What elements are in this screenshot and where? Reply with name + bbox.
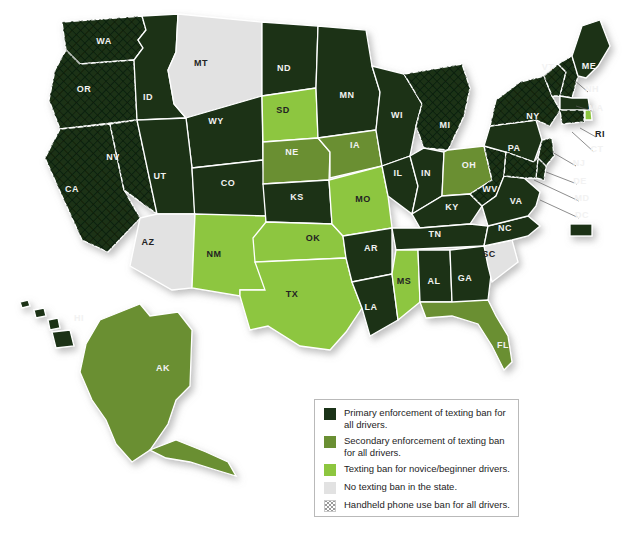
state-label-CT: CT [591, 144, 604, 154]
state-label-AK: AK [156, 363, 170, 373]
legend-label: No texting ban in the state. [344, 481, 457, 493]
state-shape-TX [240, 258, 362, 350]
state-label-VA: VA [510, 196, 523, 206]
state-label-VT: VT [542, 62, 554, 72]
legend-swatch-primary-icon [324, 408, 336, 420]
legend-item-hatch: Handheld phone use ban for all drivers. [324, 499, 510, 512]
legend-swatch-hatch-icon [324, 500, 336, 512]
state-shape-FL [420, 300, 512, 370]
legend-swatch-novice-icon [324, 464, 336, 476]
state-shape-AZ [130, 214, 195, 290]
legend-swatch-secondary-icon [324, 436, 336, 448]
state-label-NJ: NJ [573, 158, 585, 168]
state-label-MT: MT [194, 58, 208, 68]
state-label-AR: AR [364, 243, 378, 253]
state-shape-HI-a [20, 300, 30, 308]
legend-item-novice: Texting ban for novice/beginner drivers. [324, 463, 510, 476]
state-shape-ND [262, 22, 318, 96]
state-label-NH: NH [585, 84, 599, 94]
state-shape-DC [570, 224, 592, 236]
state-label-NM: NM [207, 249, 222, 259]
state-label-MD: MD [575, 193, 590, 203]
state-label-NV: NV [106, 152, 119, 162]
state-label-DC: DC [575, 210, 589, 220]
state-label-NE: NE [285, 147, 298, 157]
state-label-GA: GA [458, 273, 472, 283]
legend-label: Primary enforcement of texting ban for a… [344, 407, 510, 430]
state-label-UT: UT [154, 171, 167, 181]
state-label-IA: IA [350, 140, 360, 150]
state-shape-KS [263, 180, 332, 224]
state-label-CO: CO [221, 178, 235, 188]
state-label-KS: KS [290, 192, 303, 202]
state-label-DE: DE [573, 176, 586, 186]
legend-swatch-none-icon [324, 482, 336, 494]
state-label-NY: NY [526, 111, 539, 121]
state-label-OR: OR [77, 84, 91, 94]
state-shape-OK [253, 222, 346, 262]
state-label-WI: WI [391, 110, 403, 120]
state-label-PA: PA [508, 143, 521, 153]
state-shape-MN [316, 26, 380, 138]
state-label-FL: FL [497, 340, 509, 350]
state-label-OH: OH [462, 160, 476, 170]
state-shape-HI-d [52, 330, 74, 348]
state-shape-NE [263, 138, 330, 184]
state-label-CA: CA [65, 184, 79, 194]
state-shape-HI-c [48, 318, 60, 330]
legend-item-secondary: Secondary enforcement of texting ban for… [324, 435, 510, 458]
state-label-TN: TN [429, 229, 442, 239]
state-label-TX: TX [286, 289, 298, 299]
state-shape-HI-b [34, 308, 46, 318]
legend-item-none: No texting ban in the state. [324, 481, 510, 494]
state-label-ND: ND [277, 63, 291, 73]
state-label-RI: RI [595, 129, 605, 139]
state-label-AL: AL [428, 276, 441, 286]
map-legend: Primary enforcement of texting ban for a… [314, 399, 519, 517]
state-label-WY: WY [208, 116, 223, 126]
state-label-IL: IL [394, 168, 403, 178]
legend-label: Texting ban for novice/beginner drivers. [344, 463, 510, 475]
state-shape-AR [343, 228, 392, 282]
state-shape-AK [80, 304, 192, 462]
state-label-MN: MN [340, 90, 355, 100]
legend-item-primary: Primary enforcement of texting ban for a… [324, 407, 510, 430]
state-label-KY: KY [445, 202, 458, 212]
handheld-ban-hatch-CT [560, 110, 584, 124]
state-label-MO: MO [355, 194, 370, 204]
state-label-SD: SD [276, 105, 289, 115]
us-map-figure: WAORCANVIDMTWYUTCOAZNMNDSDNEKSOKTXMNIAMO… [0, 0, 638, 536]
state-shape-AK-tail [150, 440, 236, 476]
legend-label: Secondary enforcement of texting ban for… [344, 435, 510, 458]
state-label-SC: SC [482, 249, 495, 259]
legend-label: Handheld phone use ban for all drivers. [344, 499, 510, 511]
state-shape-SD [262, 88, 318, 142]
state-label-MI: MI [440, 120, 451, 130]
state-label-HI: HI [74, 313, 84, 323]
state-label-NC: NC [498, 223, 512, 233]
state-label-MA: MA [589, 103, 604, 113]
state-label-MS: MS [397, 276, 411, 286]
state-label-LA: LA [365, 302, 378, 312]
state-label-OK: OK [306, 233, 320, 243]
state-label-WV: WV [482, 184, 497, 194]
state-label-AZ: AZ [142, 237, 155, 247]
state-label-WA: WA [96, 36, 111, 46]
state-shape-CO [192, 160, 266, 222]
state-label-ME: ME [582, 61, 596, 71]
state-label-IN: IN [421, 168, 431, 178]
state-label-ID: ID [143, 92, 153, 102]
